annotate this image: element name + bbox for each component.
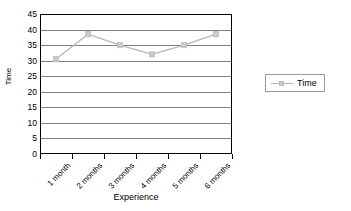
data-point-marker xyxy=(213,32,218,37)
x-tick xyxy=(200,154,201,159)
x-axis-title: Experience xyxy=(40,192,232,202)
data-point-marker xyxy=(53,57,58,62)
y-tick-label: 15 xyxy=(19,103,37,111)
y-tick-label: 40 xyxy=(19,26,37,34)
data-point-marker xyxy=(149,52,154,57)
y-axis-tick-labels: 051015202530354045 xyxy=(16,0,37,211)
y-tick-label: 45 xyxy=(19,10,37,18)
plot-area xyxy=(40,14,232,154)
data-point-marker xyxy=(85,32,90,37)
legend: Time xyxy=(265,74,325,92)
y-tick-label: 35 xyxy=(19,41,37,49)
y-tick-label: 5 xyxy=(19,134,37,142)
y-tick-label: 25 xyxy=(19,72,37,80)
series-line xyxy=(56,34,216,59)
legend-label-time: Time xyxy=(297,78,317,88)
x-tick xyxy=(232,154,233,159)
y-axis-title: Time xyxy=(4,53,13,101)
y-tick-label: 0 xyxy=(19,150,37,158)
line-chart: Time 051015202530354045 1 month2 months3… xyxy=(0,0,351,211)
x-tick xyxy=(40,154,41,159)
x-tick xyxy=(168,154,169,159)
legend-marker-icon xyxy=(271,79,293,88)
x-tick xyxy=(104,154,105,159)
y-tick-label: 30 xyxy=(19,57,37,65)
x-tick xyxy=(72,154,73,159)
x-tick xyxy=(136,154,137,159)
data-point-marker xyxy=(181,43,186,48)
y-tick-label: 10 xyxy=(19,119,37,127)
data-point-marker xyxy=(117,43,122,48)
series-time xyxy=(40,14,232,154)
y-tick-label: 20 xyxy=(19,88,37,96)
